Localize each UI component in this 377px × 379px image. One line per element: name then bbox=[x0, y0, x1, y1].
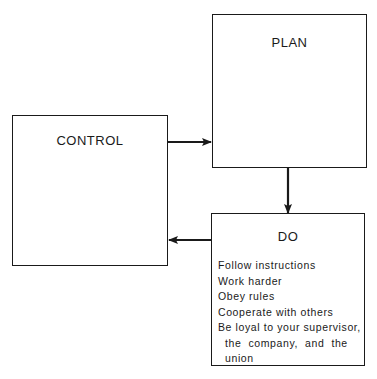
do-item: Work harder bbox=[218, 274, 361, 290]
do-item: union bbox=[218, 351, 361, 367]
diagram-canvas: PLAN CONTROL DO Follow instructions Work… bbox=[0, 0, 377, 379]
plan-box: PLAN bbox=[212, 14, 367, 168]
do-label: DO bbox=[212, 229, 364, 244]
do-box: DO Follow instructions Work harder Obey … bbox=[211, 213, 365, 366]
do-items-list: Follow instructions Work harder Obey rul… bbox=[218, 258, 361, 367]
plan-label: PLAN bbox=[213, 35, 366, 50]
control-box: CONTROL bbox=[12, 115, 168, 266]
do-item: Be loyal to your supervisor, bbox=[218, 320, 361, 336]
do-item: Follow instructions bbox=[218, 258, 361, 274]
do-item: Obey rules bbox=[218, 289, 361, 305]
do-item: the company, and the bbox=[218, 336, 361, 352]
do-item: Cooperate with others bbox=[218, 305, 361, 321]
control-label: CONTROL bbox=[13, 133, 167, 148]
